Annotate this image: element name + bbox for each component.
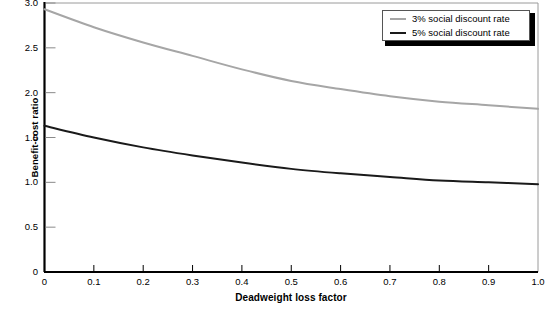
x-tick-label: 0.6 bbox=[321, 276, 361, 287]
x-axis-title: Deadweight loss factor bbox=[44, 292, 538, 303]
y-tick-label: 0.5 bbox=[4, 222, 38, 232]
x-tick-label: 0.7 bbox=[370, 276, 410, 287]
chart-figure: 00.51.01.52.02.53.0 00.10.20.30.40.50.60… bbox=[0, 0, 550, 313]
x-tick-marks bbox=[94, 265, 489, 271]
x-tick-label: 0.1 bbox=[74, 276, 114, 287]
x-tick-label: 0.9 bbox=[469, 276, 509, 287]
legend-entry-label: 3% social discount rate bbox=[412, 14, 510, 24]
y-axis-title: Benefit-cost ratio bbox=[29, 58, 40, 218]
y-tick-label: 2.5 bbox=[4, 43, 38, 53]
series-line bbox=[45, 126, 539, 184]
x-tick-label: 0.4 bbox=[222, 276, 262, 287]
chart-legend: 3% social discount rate 5% social discou… bbox=[382, 10, 532, 43]
x-tick-label: 0.8 bbox=[419, 276, 459, 287]
x-tick-label: 0.2 bbox=[123, 276, 163, 287]
legend-line-swatch-icon bbox=[390, 18, 406, 20]
x-tick-label: 0.5 bbox=[271, 276, 311, 287]
x-tick-label: 0.3 bbox=[173, 276, 213, 287]
legend-entry-label: 5% social discount rate bbox=[412, 28, 510, 38]
legend-entry-5-percent: 5% social discount rate bbox=[389, 26, 510, 40]
y-tick-label: 3.0 bbox=[4, 0, 38, 8]
x-tick-label: 0 bbox=[25, 276, 65, 287]
y-tick-marks bbox=[46, 3, 56, 227]
legend-entry-3-percent: 3% social discount rate bbox=[389, 12, 510, 26]
legend-line-swatch-icon bbox=[390, 32, 406, 34]
plot-canvas bbox=[0, 0, 550, 313]
x-tick-labels: 00.10.20.30.40.50.60.70.80.91.0 bbox=[0, 276, 550, 290]
legend-box: 3% social discount rate 5% social discou… bbox=[382, 10, 530, 41]
x-tick-label: 1.0 bbox=[518, 276, 550, 287]
